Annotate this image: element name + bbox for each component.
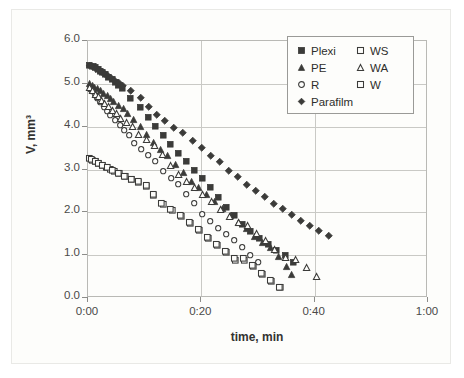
data-point <box>240 255 247 262</box>
y-tick-label: 1.0 <box>44 246 80 258</box>
x-tick-label: 1:00 <box>402 305 452 317</box>
legend-row: Parafilm <box>295 93 413 110</box>
filled-diamond-icon <box>295 98 308 105</box>
legend-entry-pe[interactable]: PE <box>295 62 354 74</box>
data-point <box>276 284 283 291</box>
data-point <box>186 219 193 226</box>
data-point <box>231 255 238 262</box>
x-tick-label: 0:40 <box>289 305 339 317</box>
data-point <box>222 248 229 255</box>
data-point <box>143 182 150 189</box>
y-tick-label: 5.0 <box>44 75 80 87</box>
x-axis-label: time, min <box>87 330 427 344</box>
data-point <box>128 176 135 183</box>
legend-entry-wa[interactable]: WA <box>354 62 413 74</box>
legend-row: RW <box>295 76 413 93</box>
chart-legend: PlexiWSPEWARWParafilm <box>287 36 414 114</box>
legend-entry-parafilm[interactable]: Parafilm <box>295 96 356 108</box>
legend-label: Plexi <box>311 45 336 57</box>
x-tick-label: 0:20 <box>175 305 225 317</box>
x-tick-mark <box>314 297 315 302</box>
y-tick-label: 4.0 <box>44 118 80 130</box>
legend-entry-r[interactable]: R <box>295 79 354 91</box>
legend-label: WA <box>370 62 388 74</box>
x-tick-mark <box>200 297 201 302</box>
data-point <box>167 206 174 213</box>
data-point <box>249 262 256 269</box>
open-triangle-icon <box>354 64 367 71</box>
chart-figure: V, mm³ 0.01.02.03.04.05.06.0 0:000:200:4… <box>0 0 464 378</box>
filled-triangle-icon <box>295 64 308 71</box>
data-point <box>150 191 157 198</box>
legend-entry-plexi[interactable]: Plexi <box>295 45 354 57</box>
x-tick-label: 0:00 <box>62 305 112 317</box>
legend-label: PE <box>311 62 326 74</box>
data-point <box>177 212 184 219</box>
data-point <box>121 173 128 180</box>
data-point <box>258 270 265 277</box>
legend-label: WS <box>370 45 389 57</box>
y-tick-label: 0.0 <box>44 289 80 301</box>
data-point <box>135 178 142 185</box>
legend-label: Parafilm <box>311 96 353 108</box>
x-tick-mark <box>87 297 88 302</box>
legend-entry-w[interactable]: W <box>354 79 413 91</box>
y-tick-label: 3.0 <box>44 161 80 173</box>
open-square-icon <box>354 81 367 88</box>
y-tick-label: 2.0 <box>44 203 80 215</box>
legend-label: W <box>370 79 381 91</box>
filled-square-icon <box>295 47 308 54</box>
open-square-icon <box>354 47 367 54</box>
data-point <box>158 200 165 207</box>
legend-label: R <box>311 79 319 91</box>
legend-row: PlexiWS <box>295 42 413 59</box>
data-point <box>204 234 211 241</box>
data-point <box>213 241 220 248</box>
y-tick-label: 6.0 <box>44 32 80 44</box>
data-point <box>267 277 274 284</box>
open-circle-icon <box>295 81 308 88</box>
legend-entry-ws[interactable]: WS <box>354 45 413 57</box>
y-axis-label: V, mm³ <box>24 136 38 154</box>
data-point <box>195 226 202 233</box>
x-tick-mark <box>427 297 428 302</box>
legend-row: PEWA <box>295 59 413 76</box>
